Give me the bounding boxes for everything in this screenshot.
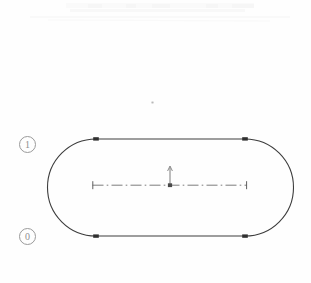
vertex-bottom-left	[93, 234, 99, 237]
vertical-axis-arrow[interactable]	[168, 166, 173, 185]
profile-vertex-markers[interactable]	[93, 137, 248, 238]
sketch-vector-layer	[0, 0, 311, 283]
scan-band	[30, 3, 290, 21]
origin-marker[interactable]	[168, 183, 172, 187]
circled-label-one[interactable]: 1	[19, 136, 36, 153]
vertex-top-left	[93, 137, 99, 140]
vertex-top-right	[242, 137, 248, 140]
vertex-bottom-right	[242, 234, 248, 237]
circled-label-zero[interactable]: 0	[19, 228, 36, 245]
scan-speck	[151, 101, 154, 104]
obround-profile[interactable]	[47, 139, 293, 236]
drawing-canvas: 1 0	[0, 0, 311, 283]
